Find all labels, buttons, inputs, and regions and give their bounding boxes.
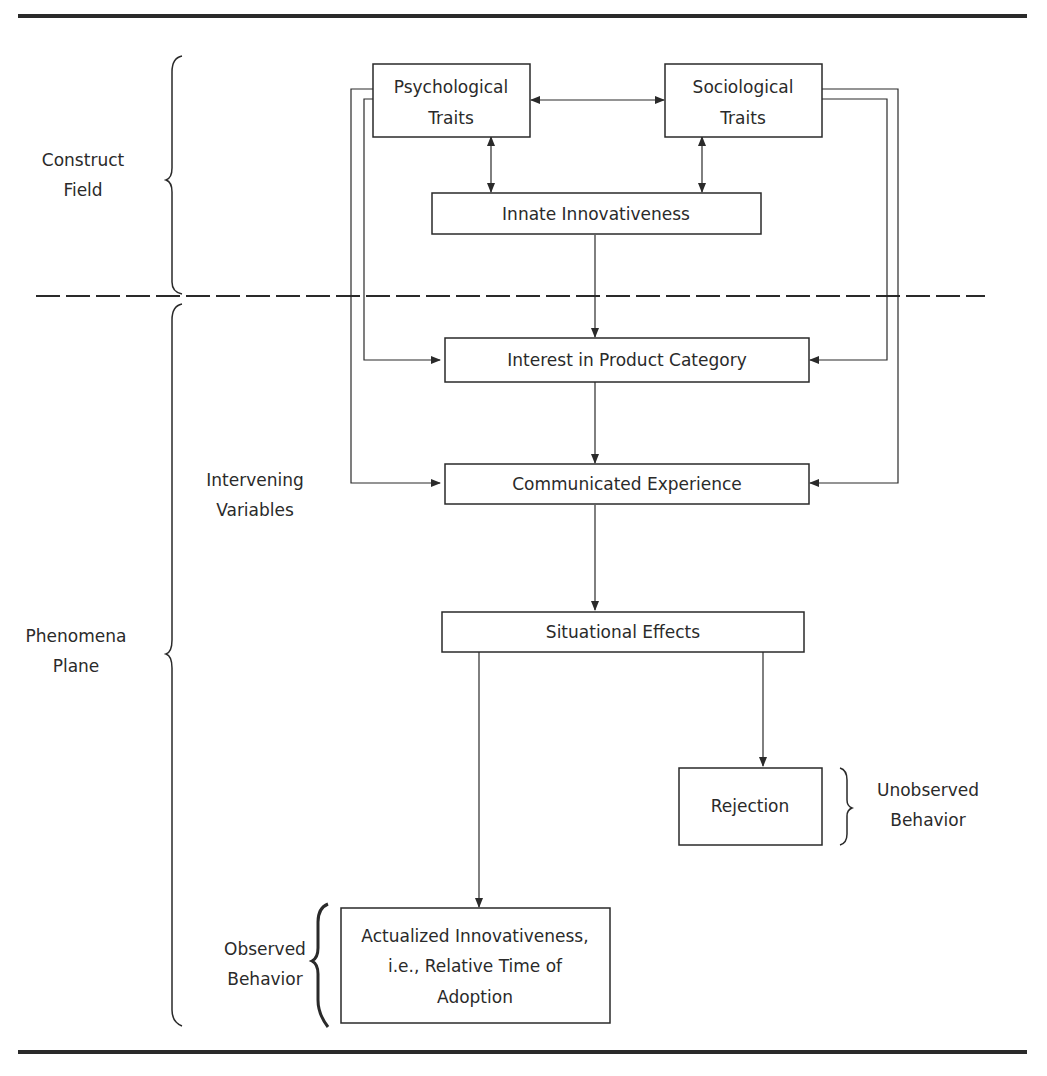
svg-text:Actualized Innovativeness,: Actualized Innovativeness, — [361, 926, 588, 946]
unobserved-behavior-brace — [840, 768, 852, 845]
svg-text:Interest in Product Category: Interest in Product Category — [507, 350, 746, 370]
socio-to-interest-line — [810, 99, 887, 360]
observed-behavior-label: Observed — [224, 939, 306, 959]
svg-text:Traits: Traits — [427, 108, 474, 128]
svg-text:Communicated Experience: Communicated Experience — [512, 474, 742, 494]
phenomena-plane-label: Phenomena — [26, 626, 127, 646]
observed-behavior-label-line2: Behavior — [227, 969, 303, 989]
communicated-experience-box: Communicated Experience — [445, 464, 809, 504]
rejection-box: Rejection — [679, 768, 822, 845]
svg-text:Situational Effects: Situational Effects — [546, 622, 700, 642]
phenomena-plane-label-line2: Plane — [53, 656, 100, 676]
innate-innovativeness-box: Innate Innovativeness — [432, 193, 761, 234]
construct-field-brace — [166, 56, 182, 294]
svg-text:Sociological: Sociological — [693, 77, 794, 97]
construct-field-label: Construct — [42, 150, 125, 170]
psych-to-interest-line — [364, 99, 440, 360]
svg-text:Innate Innovativeness: Innate Innovativeness — [502, 204, 690, 224]
situational-effects-box: Situational Effects — [442, 612, 804, 652]
unobserved-behavior-label: Unobserved — [877, 780, 979, 800]
socio-to-communicated-line — [810, 89, 898, 483]
construct-field-label-line2: Field — [63, 180, 102, 200]
svg-text:i.e., Relative Time of: i.e., Relative Time of — [388, 956, 563, 976]
psychological-traits-box: Psychological Traits — [373, 64, 530, 137]
observed-behavior-brace — [312, 904, 328, 1027]
svg-text:Traits: Traits — [719, 108, 766, 128]
svg-text:Adoption: Adoption — [437, 987, 513, 1007]
svg-text:Psychological: Psychological — [394, 77, 509, 97]
innovativeness-model-diagram: Construct Field Intervening Variables Ph… — [0, 0, 1047, 1076]
actualized-innovativeness-box: Actualized Innovativeness, i.e., Relativ… — [341, 908, 610, 1023]
svg-text:Rejection: Rejection — [711, 796, 790, 816]
intervening-variables-label-line2: Variables — [216, 500, 294, 520]
sociological-traits-box: Sociological Traits — [665, 64, 822, 137]
interest-in-product-category-box: Interest in Product Category — [445, 338, 809, 382]
unobserved-behavior-label-line2: Behavior — [890, 810, 966, 830]
phenomena-plane-brace — [166, 304, 182, 1026]
intervening-variables-label: Intervening — [206, 470, 303, 490]
